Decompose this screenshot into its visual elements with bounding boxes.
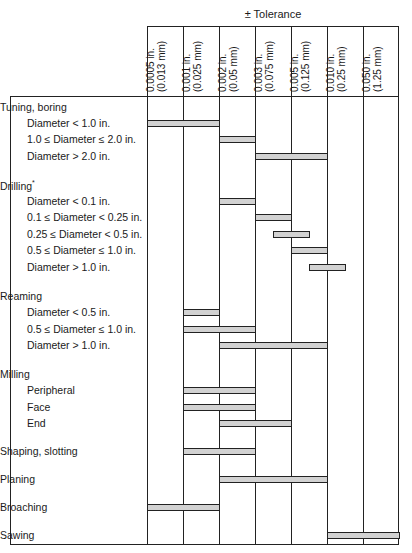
tolerance-bar	[219, 476, 328, 483]
process-label: Broaching	[0, 501, 47, 513]
tolerance-bar	[255, 153, 328, 160]
tolerance-bar	[147, 504, 220, 511]
condition-label: End	[27, 417, 46, 429]
column-header-label: 0.050 in.(1.25 mm)	[361, 30, 383, 92]
tolerance-bar	[183, 309, 220, 316]
column-divider	[147, 96, 148, 545]
condition-label: Diameter < 1.0 in.	[27, 117, 110, 129]
tolerance-bar	[183, 387, 256, 394]
tolerance-bar	[147, 120, 220, 127]
column-header: 0.010 in.(0.25 mm)	[327, 26, 363, 96]
process-label: Sawing	[0, 529, 34, 541]
condition-label: Diameter < 0.1 in.	[27, 195, 110, 207]
column-header: 0.002 in.(0.05 mm)	[219, 26, 255, 96]
process-label: Drilling*	[0, 179, 35, 192]
tolerance-bar	[309, 264, 346, 271]
column-header: 0.005 in.(0.125 mm)	[291, 26, 327, 96]
condition-label: Face	[27, 401, 50, 413]
condition-label: 0.25 ≤ Diameter < 0.5 in.	[27, 228, 142, 240]
condition-label: 1.0 ≤ Diameter ≤ 2.0 in.	[27, 133, 136, 145]
column-header: 0.001 in.(0.025 mm)	[183, 26, 219, 96]
process-label: Planing	[0, 473, 35, 485]
tolerance-bar	[255, 214, 292, 221]
condition-label: Diameter > 1.0 in.	[27, 261, 110, 273]
process-label: Milling	[0, 368, 30, 380]
column-header: 0.0005 in.(0.013 mm)	[147, 26, 183, 96]
tolerance-bar	[183, 326, 256, 333]
column-header-label: 0.002 in.(0.05 mm)	[217, 30, 239, 92]
process-label: Reaming	[0, 290, 42, 302]
condition-label: Diameter > 2.0 in.	[27, 150, 110, 162]
condition-label: Peripheral	[27, 384, 75, 396]
column-header: 0.050 in.(1.25 mm)	[363, 26, 399, 96]
condition-label: Diameter > 1.0 in.	[27, 339, 110, 351]
condition-label: 0.1 ≤ Diameter < 0.25 in.	[27, 211, 142, 223]
chart-title: ± Tolerance	[147, 8, 399, 20]
column-header-label: 0.010 in.(0.25 mm)	[325, 30, 347, 92]
condition-label: 0.5 ≤ Diameter ≤ 1.0 in.	[27, 244, 136, 256]
column-header-label: 0.003 in.(0.075 mm)	[253, 30, 275, 92]
tolerance-bar	[219, 198, 256, 205]
table-body	[10, 96, 399, 545]
tolerance-bar	[219, 420, 292, 427]
tolerance-bar	[183, 404, 256, 411]
condition-label: Diameter < 0.5 in.	[27, 306, 110, 318]
tolerance-bar	[291, 247, 328, 254]
tolerance-bar	[183, 448, 256, 455]
column-header-label: 0.0005 in.(0.013 mm)	[145, 30, 167, 92]
column-divider	[363, 96, 364, 545]
column-header-label: 0.005 in.(0.125 mm)	[289, 30, 311, 92]
process-label: Shaping, slotting	[0, 445, 78, 457]
column-header-label: 0.001 in.(0.025 mm)	[181, 30, 203, 92]
condition-label: 0.5 ≤ Diameter ≤ 1.0 in.	[27, 323, 136, 335]
tolerance-bar	[327, 532, 400, 539]
process-label: Tuning, boring	[0, 101, 67, 113]
column-header: 0.003 in.(0.075 mm)	[255, 26, 291, 96]
tolerance-bar	[219, 136, 256, 143]
column-divider	[183, 96, 184, 545]
tolerance-bar	[219, 342, 328, 349]
tolerance-bar	[273, 231, 310, 238]
